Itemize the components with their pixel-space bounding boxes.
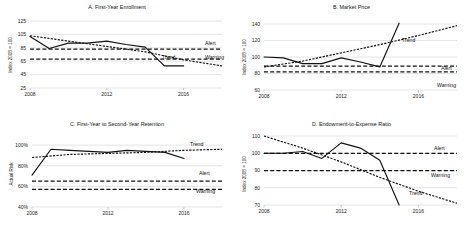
y-axis-tick-label: 100	[252, 150, 261, 156]
y-axis-tick-label: 120	[252, 37, 261, 43]
series-label-trend: Trend	[190, 141, 203, 147]
panel-c-plot: 100%80%60%40%Actual Risk200820122016Tren…	[0, 117, 234, 234]
x-axis-tick-label: 2008	[258, 93, 269, 99]
series-label-trend: Trend	[402, 37, 415, 43]
x-axis-tick-label: 2016	[178, 210, 189, 216]
y-axis-title: Index 2008 = 100	[242, 156, 247, 192]
series-label-alert: Alert	[199, 170, 210, 176]
y-axis-tick-label: 125	[18, 18, 27, 24]
y-axis-tick-label: 80	[254, 185, 260, 191]
panel-b-market-price: B. Market Price 1401201008060Index 2008 …	[234, 0, 469, 117]
series-line-actual	[264, 143, 399, 205]
y-axis-tick-label: 80	[254, 70, 260, 76]
series-label-trend: Trend	[162, 54, 175, 60]
x-axis-tick-label: 2016	[413, 208, 424, 214]
y-axis-tick-label: 85	[20, 45, 26, 51]
series-line-trend	[264, 136, 457, 203]
y-axis-tick-label: 140	[252, 21, 261, 27]
y-axis-tick-label: 65	[20, 58, 26, 64]
x-axis-tick-label: 2016	[178, 91, 189, 97]
x-axis-tick-label: 2008	[24, 91, 35, 97]
series-label-warning: Warning	[437, 82, 456, 88]
panel-d-plot: 110100908070Index 2008 = 100200820122016…	[234, 117, 469, 234]
series-label-warning: Warning	[431, 172, 450, 178]
y-axis-tick-label: 80%	[18, 163, 29, 169]
y-axis-tick-label: 60	[254, 87, 260, 93]
y-axis-tick-label: 70	[254, 202, 260, 208]
series-line-actual	[32, 149, 184, 175]
four-panel-chart-figure: A. First-Year Enrollment 12510585654525I…	[0, 0, 469, 234]
series-label-warning: Warning	[196, 188, 215, 194]
series-label-alert: Alert	[434, 145, 445, 151]
series-label-trend: Trend	[409, 190, 422, 196]
y-axis-tick-label: 25	[20, 85, 26, 91]
x-axis-tick-label: 2012	[102, 210, 113, 216]
y-axis-tick-label: 110	[252, 133, 260, 139]
y-axis-tick-label: 100	[252, 54, 261, 60]
y-axis-tick-label: 105	[18, 31, 27, 37]
panel-b-plot: 1401201008060Index 2008 = 10020082012201…	[234, 0, 469, 117]
series-label-warning: Warning	[205, 54, 224, 60]
y-axis-tick-label: 90	[254, 167, 260, 173]
x-axis-tick-label: 2008	[26, 210, 37, 216]
x-axis-tick-label: 2012	[101, 91, 112, 97]
series-line-actual	[30, 36, 184, 65]
series-label-alert: Alert	[205, 40, 216, 46]
panel-a-plot: 12510585654525Index 2008 = 1002008201220…	[0, 0, 234, 117]
y-axis-tick-label: 45	[20, 71, 26, 77]
y-axis-title: Actual Risk	[9, 162, 14, 186]
x-axis-tick-label: 2008	[258, 208, 269, 214]
panel-d-endowment-to-expense: D. Endowment-to-Expense Ratio 1101009080…	[234, 117, 469, 234]
x-axis-tick-label: 2012	[336, 93, 347, 99]
y-axis-tick-label: 40%	[18, 204, 29, 210]
y-axis-tick-label: 100%	[15, 142, 28, 148]
x-axis-tick-label: 2016	[413, 93, 424, 99]
series-label-alert: Alert	[441, 65, 452, 71]
panel-a-first-year-enrollment: A. First-Year Enrollment 12510585654525I…	[0, 0, 234, 117]
y-axis-title: Index 2008 = 100	[242, 39, 247, 75]
x-axis-tick-label: 2012	[336, 208, 347, 214]
panel-c-retention: C. First-Year to Second-Year Retention 1…	[0, 117, 234, 234]
y-axis-tick-label: 60%	[18, 183, 29, 189]
y-axis-title: Index 2008 = 100	[8, 37, 13, 73]
